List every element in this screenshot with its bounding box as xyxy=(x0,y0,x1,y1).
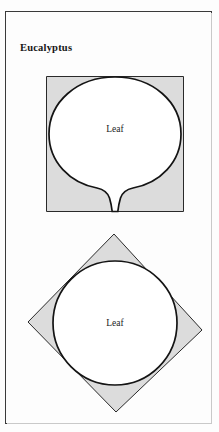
page-frame: Eucalyptus Leaf Leaf xyxy=(5,11,212,424)
leaf-label-figure-2: Leaf xyxy=(106,318,124,328)
page-root: Eucalyptus Leaf Leaf xyxy=(0,0,219,432)
figure-balloon-in-square: Leaf xyxy=(36,67,194,222)
balloon-in-square-graphic: Leaf xyxy=(36,67,194,222)
leaf-label-figure-1: Leaf xyxy=(106,124,124,134)
figure-circle-in-diamond: Leaf xyxy=(20,225,212,421)
page-title: Eucalyptus xyxy=(20,42,72,53)
circle-in-diamond-graphic: Leaf xyxy=(20,225,212,421)
